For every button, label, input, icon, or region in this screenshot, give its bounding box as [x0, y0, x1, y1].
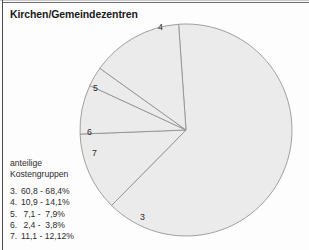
legend-item: 4.10,9 - 14,1% — [10, 197, 74, 208]
legend-item: 3.60,8 - 68,4% — [10, 186, 74, 197]
legend-item-range: 60,8 - 68,4% — [21, 186, 70, 197]
legend-item: 6. 2,4 - 3,8% — [10, 220, 74, 231]
pie-slice-label-3: 3 — [140, 212, 145, 222]
pie-slice-label-5: 5 — [93, 83, 98, 93]
legend-item-key: 3. — [10, 186, 21, 197]
legend-item-range: 7,1 - 7,9% — [21, 209, 65, 220]
legend-item-range: 11,1 - 12,12% — [21, 231, 74, 242]
legend-heading: anteilige Kostengruppen — [10, 158, 74, 181]
pie-slice-label-6: 6 — [87, 127, 92, 137]
chart-page: Kirchen/Gemeindezentren 34567 anteilige … — [0, 0, 309, 250]
legend-item-range: 10,9 - 14,1% — [21, 197, 70, 208]
legend: anteilige Kostengruppen 3.60,8 - 68,4%4.… — [10, 158, 74, 243]
pie-slices-group — [80, 24, 292, 236]
legend-item-key: 6. — [10, 220, 21, 231]
legend-heading-line1: anteilige — [10, 158, 74, 169]
pie-slice-label-7: 7 — [92, 148, 97, 158]
legend-item-key: 7. — [10, 231, 21, 242]
pie-slice-label-4: 4 — [158, 22, 163, 32]
legend-item-key: 4. — [10, 197, 21, 208]
legend-heading-line2: Kostengruppen — [10, 169, 74, 180]
legend-item: 7.11,1 - 12,12% — [10, 231, 74, 242]
legend-item: 5. 7,1 - 7,9% — [10, 209, 74, 220]
legend-item-range: 2,4 - 3,8% — [21, 220, 65, 231]
legend-rows: 3.60,8 - 68,4%4.10,9 - 14,1%5. 7,1 - 7,9… — [10, 186, 74, 243]
legend-item-key: 5. — [10, 209, 21, 220]
